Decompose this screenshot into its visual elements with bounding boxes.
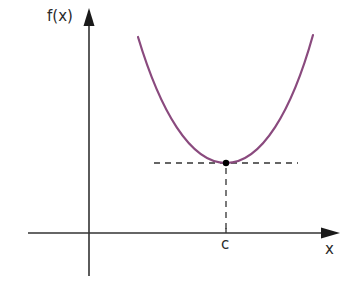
- y-axis-arrowhead-icon: [84, 8, 95, 26]
- parabola-curve: [138, 35, 313, 163]
- function-graph: [0, 0, 352, 291]
- minimum-point: [223, 160, 229, 166]
- x-axis-label: x: [325, 242, 334, 257]
- x-axis-arrowhead-icon: [321, 228, 340, 239]
- y-axis-label: f(x): [47, 9, 73, 24]
- minimum-x-label: c: [221, 237, 229, 252]
